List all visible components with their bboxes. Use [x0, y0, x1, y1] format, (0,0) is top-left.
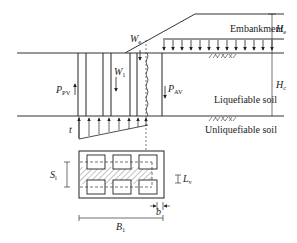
embankment-load-arrows — [164, 40, 272, 50]
symbol-he: He — [275, 23, 286, 35]
symbol-b: b — [156, 206, 161, 217]
symbol-ppv: PPV — [55, 84, 71, 96]
si-dimension — [64, 162, 70, 187]
plan-view — [79, 151, 164, 198]
symbol-lv: Lv — [182, 173, 193, 185]
label-liquefiable-soil: Liquefiable soil — [214, 94, 277, 105]
symbol-b1: B1 — [116, 221, 125, 233]
shear-distribution — [79, 117, 148, 139]
soil-wall-schematic: Embankment Liquefiable soil Unliquefiabl… — [0, 0, 297, 243]
ground-hatch-marks — [209, 54, 236, 121]
label-unliquefiable-soil: Unliquefiable soil — [205, 124, 277, 135]
lv-dimension — [175, 175, 181, 183]
symbol-si: Si — [50, 169, 57, 181]
grid-wall-section — [78, 53, 162, 116]
symbol-pav: PAV — [167, 83, 183, 95]
symbol-w1: W1 — [114, 66, 126, 78]
symbol-hc: Hc — [275, 79, 286, 91]
figure-container: Embankment Liquefiable soil Unliquefiabl… — [0, 0, 297, 243]
symbol-t: t — [69, 124, 72, 135]
symbol-we: We — [130, 33, 141, 45]
